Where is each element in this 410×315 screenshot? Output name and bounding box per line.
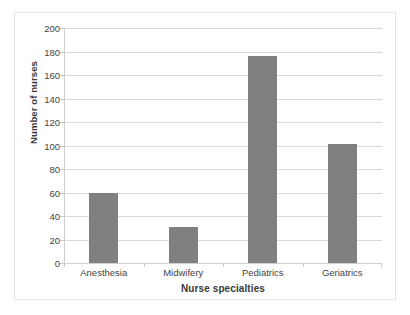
bar-slot <box>303 28 383 263</box>
y-tick-label: 60 <box>14 187 60 198</box>
x-tick-label: Geriatrics <box>303 267 383 278</box>
y-tick-label: 140 <box>14 93 60 104</box>
y-tick-label: 180 <box>14 46 60 57</box>
x-tick-label: Pediatrics <box>223 267 303 278</box>
x-axis-title: Nurse specialties <box>64 283 382 294</box>
bar[interactable] <box>248 56 277 263</box>
y-tick-label: 80 <box>14 164 60 175</box>
bar-slot <box>64 28 144 263</box>
y-tick-label: 160 <box>14 70 60 81</box>
bars-layer <box>64 28 382 263</box>
x-tick-label: Anesthesia <box>64 267 144 278</box>
y-tick-label: 200 <box>14 23 60 34</box>
bar[interactable] <box>89 193 118 264</box>
y-tick-label: 20 <box>14 234 60 245</box>
plot-area: 200180160140120100806040200 <box>64 28 382 263</box>
x-axis-tick-labels: AnesthesiaMidwiferyPediatricsGeriatrics <box>64 267 382 278</box>
x-tick-label: Midwifery <box>144 267 224 278</box>
bar[interactable] <box>169 227 198 263</box>
y-tick-label: 120 <box>14 117 60 128</box>
y-tick-label: 40 <box>14 211 60 222</box>
y-tick-label: 0 <box>14 258 60 269</box>
bar-slot <box>144 28 224 263</box>
bar-chart: Number of nurses 20018016014012010080604… <box>14 12 396 300</box>
y-tick-label: 100 <box>14 140 60 151</box>
bar[interactable] <box>328 144 357 263</box>
bar-slot <box>223 28 303 263</box>
